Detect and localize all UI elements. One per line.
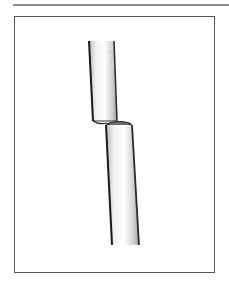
top-rule (13, 4, 229, 6)
lower-stem-segment (103, 125, 143, 249)
illustration-frame (14, 16, 215, 273)
upper-stem-segment (89, 39, 117, 121)
broken-stem-illustration (15, 17, 216, 274)
